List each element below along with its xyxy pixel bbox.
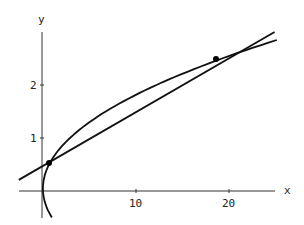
y-axis-label: y [38, 14, 45, 25]
straight-line [19, 32, 275, 180]
intersection-point-1 [46, 160, 52, 166]
plot-area [0, 0, 304, 225]
y-tick-label-1: 1 [30, 133, 37, 144]
x-tick-label-20: 20 [222, 198, 235, 209]
x-axis-label: x [284, 185, 291, 196]
intersection-point-2 [213, 56, 219, 62]
x-tick-label-10: 10 [129, 198, 142, 209]
y-tick-label-2: 2 [30, 80, 37, 91]
